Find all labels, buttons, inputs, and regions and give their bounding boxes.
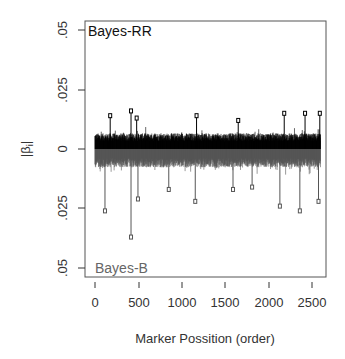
bayes-b-series: [95, 149, 321, 175]
x-tick-label: 2000: [255, 295, 284, 310]
x-tick-label: 0: [91, 295, 98, 310]
x-tick-label: 500: [128, 295, 150, 310]
y-axis: [78, 30, 85, 268]
needle-plot: .05 .025 0 .025 .05 |βi| 0 500 1000 1500…: [0, 0, 345, 359]
x-tick-label: 1500: [211, 295, 240, 310]
y-axis-title: |βi|: [18, 141, 35, 157]
y-tick-label: .05: [55, 21, 70, 39]
y-tick-labels: .05 .025 0 .025 .05: [55, 21, 70, 277]
x-axis-title: Marker Possition (order): [135, 331, 274, 346]
x-tick-labels: 0 500 1000 1500 2000 2500: [91, 295, 326, 310]
panel-label-bayes-rr: Bayes-RR: [88, 23, 152, 39]
x-tick-label: 2500: [298, 295, 327, 310]
panel-label-bayes-b: Bayes-B: [95, 260, 148, 276]
x-tick-label: 1000: [168, 295, 197, 310]
y-tick-label: 0: [55, 145, 70, 152]
y-tick-label: .025: [55, 195, 70, 220]
bayes-rr-series: [95, 127, 321, 149]
peak-markers: [103, 109, 321, 239]
x-axis: [95, 282, 312, 288]
y-tick-label: .025: [55, 77, 70, 102]
y-tick-label: .05: [55, 259, 70, 277]
